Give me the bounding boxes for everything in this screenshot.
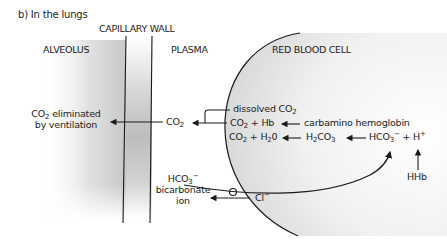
alveolus-shading xyxy=(40,40,126,220)
carbonic-acid-label: H2CO3 xyxy=(306,131,335,142)
bicarbonate-ion-label: HCO3− bicarbonate ion xyxy=(152,173,214,206)
capillary-wall-shading xyxy=(126,38,152,218)
co2-eliminated-label: CO2 eliminated by ventilation xyxy=(30,108,102,130)
deoxyhemoglobin-label: HHb xyxy=(407,171,427,182)
co2-h2o-label: CO2 + H20 xyxy=(229,131,277,142)
plasma-label: PLASMA xyxy=(171,44,208,55)
figure-title: b) In the lungs xyxy=(18,9,88,20)
alveolus-label: ALVEOLUS xyxy=(43,44,89,55)
dissolved-co2-label: dissolved CO2 xyxy=(233,103,297,114)
co2-hb-label: CO2 + Hb xyxy=(230,117,274,128)
capillary-wall-label: CAPILLARY WALL xyxy=(99,23,175,34)
chloride-ion-label: Cl− xyxy=(255,192,270,203)
carbamino-hemoglobin-label: carbamino hemoglobin xyxy=(304,117,410,128)
plasma-co2-label: CO2 xyxy=(166,116,184,127)
bicarbonate-proton-label: HCO3− + H+ xyxy=(369,131,426,142)
red-blood-cell-label: RED BLOOD CELL xyxy=(272,44,351,55)
